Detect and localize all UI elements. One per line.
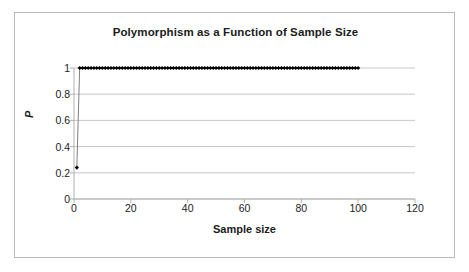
data-point-marker <box>356 66 360 70</box>
x-tick-label: 0 <box>71 203 77 214</box>
x-tick-label: 20 <box>125 203 137 214</box>
y-tick-label: 0.4 <box>24 141 70 152</box>
axis-lines <box>74 68 415 199</box>
data-series-line <box>77 68 358 168</box>
data-series-markers <box>75 66 361 170</box>
y-tick-label: 0 <box>24 194 70 205</box>
y-axis-tick-labels: 00.20.40.60.81 <box>20 68 70 199</box>
x-tick-label: 100 <box>349 203 367 214</box>
gridlines <box>74 68 415 199</box>
series-line <box>77 68 358 168</box>
x-tick-label: 40 <box>182 203 194 214</box>
x-axis-title: Sample size <box>74 223 415 235</box>
x-axis-tick-labels: 020406080100120 <box>74 203 415 223</box>
x-tick-label: 80 <box>295 203 307 214</box>
data-point-marker <box>75 165 79 169</box>
y-tick-label: 1 <box>24 63 70 74</box>
plot-svg <box>74 68 415 199</box>
chart-screenshot: Polymorphism as a Function of Sample Siz… <box>0 0 469 272</box>
x-tick-label: 120 <box>406 203 424 214</box>
y-tick-label: 0.8 <box>24 89 70 100</box>
y-axis-ticks <box>70 68 74 199</box>
y-tick-label: 0.2 <box>24 168 70 179</box>
plot-area <box>74 68 415 199</box>
chart-title: Polymorphism as a Function of Sample Siz… <box>15 26 456 38</box>
x-tick-label: 60 <box>239 203 251 214</box>
chart-frame: Polymorphism as a Function of Sample Siz… <box>14 12 455 258</box>
y-axis-title: P <box>23 111 35 118</box>
